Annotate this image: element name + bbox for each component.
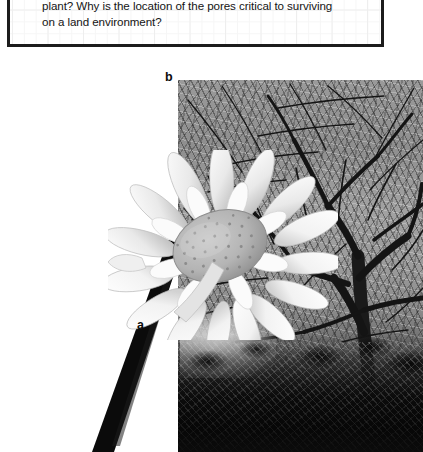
shrub-texture-layer xyxy=(178,342,423,452)
question-text: plant? Why is the location of the pores … xyxy=(42,0,372,29)
question-callout-box: plant? Why is the location of the pores … xyxy=(7,0,384,47)
panel-label-b: b xyxy=(165,70,173,84)
daisy-flower-photo xyxy=(108,150,338,340)
panel-label-a: a xyxy=(137,318,144,332)
